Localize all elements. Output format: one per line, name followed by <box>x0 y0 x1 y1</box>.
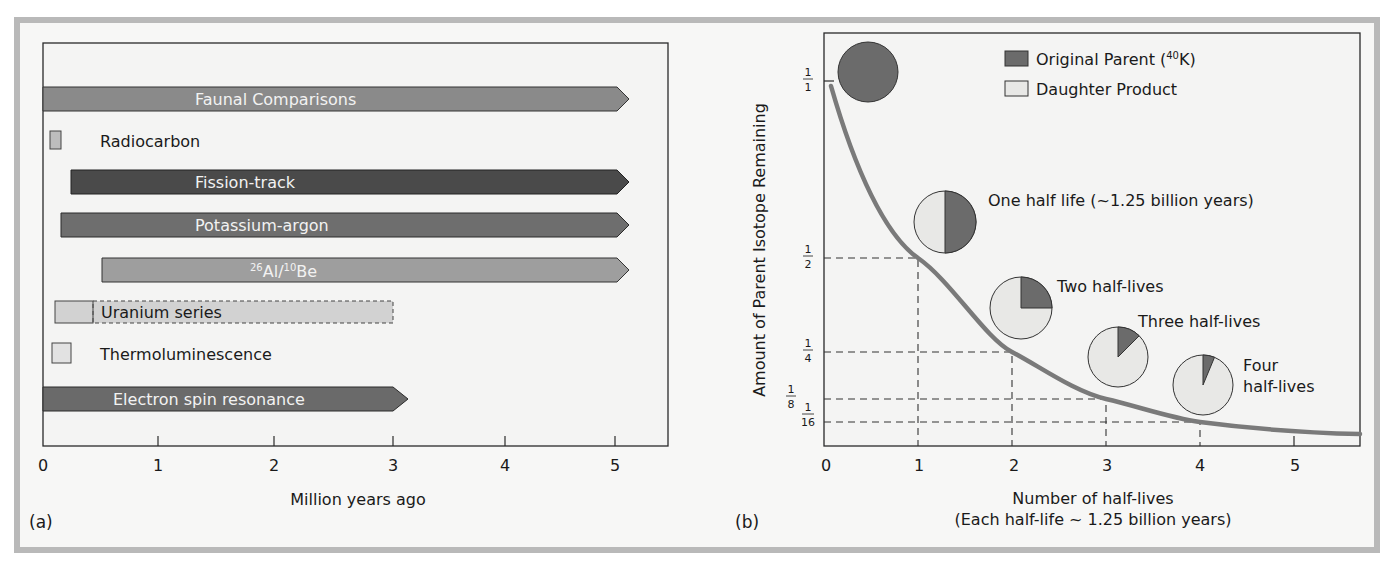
svg-text:4: 4 <box>805 352 812 365</box>
x-tick-label: 2 <box>1009 456 1019 475</box>
x-tick-label: 4 <box>500 456 510 475</box>
panel-label-a: (a) <box>29 512 53 532</box>
x-tick-label: 0 <box>821 456 831 475</box>
panel-a: Faunal Comparisons Radiocarbon Fission-t… <box>29 43 668 532</box>
y-tick-1-1: 1 1 <box>803 66 813 94</box>
x-tick-label: 1 <box>153 456 163 475</box>
bar-label: Electron spin resonance <box>113 390 305 409</box>
legend-swatch-parent <box>1005 51 1028 66</box>
y-axis-title: Amount of Parent Isotope Remaining <box>750 103 769 397</box>
bar-label: Potassium-argon <box>195 216 329 235</box>
y-tick-1-8: 1 8 <box>786 383 796 411</box>
figure-canvas: Faunal Comparisons Radiocarbon Fission-t… <box>0 0 1394 581</box>
svg-text:1: 1 <box>805 243 812 256</box>
svg-text:1: 1 <box>805 81 812 94</box>
y-tick-1-4: 1 4 <box>803 337 813 365</box>
svg-text:16: 16 <box>801 416 815 429</box>
x-tick-label: 2 <box>269 456 279 475</box>
x-tick-label: 5 <box>1290 456 1300 475</box>
x-tick-label: 3 <box>1102 456 1112 475</box>
svg-text:1: 1 <box>805 66 812 79</box>
pie-label: One half life (~1.25 billion years) <box>988 191 1254 210</box>
bar-al-be: 26Al/10Be <box>102 258 629 282</box>
x-tick-label: 1 <box>914 456 924 475</box>
pie-label: Three half-lives <box>1137 312 1260 331</box>
panel-label-b: (b) <box>735 512 759 532</box>
pie-label-line2: half-lives <box>1243 377 1314 396</box>
pie-label-line1: Four <box>1243 356 1279 375</box>
pie-label: Two half-lives <box>1056 277 1164 296</box>
y-tick-1-2: 1 2 <box>803 243 813 271</box>
bar-label: Faunal Comparisons <box>195 90 356 109</box>
svg-text:1: 1 <box>788 383 795 396</box>
bar-potassium-argon: Potassium-argon <box>61 213 629 237</box>
x-tick-label: 4 <box>1195 456 1205 475</box>
svg-text:1: 1 <box>805 401 812 414</box>
x-axis-title-line1: Number of half-lives <box>1012 489 1173 508</box>
svg-text:2: 2 <box>805 258 812 271</box>
x-tick-label: 3 <box>388 456 398 475</box>
legend-label-daughter: Daughter Product <box>1036 80 1177 99</box>
y-tick-labels: 1 1 1 2 1 4 1 8 1 16 <box>786 66 815 429</box>
bar-label: Uranium series <box>101 303 222 322</box>
bar-fission-track: Fission-track <box>71 170 629 194</box>
panel-b: One half life (~1.25 billion years) Two … <box>735 33 1360 532</box>
svg-text:1: 1 <box>805 337 812 350</box>
bar-label: Thermoluminescence <box>99 345 272 364</box>
bar-label: Fission-track <box>195 173 296 192</box>
pie-full-parent <box>838 42 898 102</box>
x-tick-label: 0 <box>38 456 48 475</box>
svg-text:8: 8 <box>788 398 795 411</box>
x-axis-title-line2: (Each half-life ~ 1.25 billion years) <box>955 510 1232 529</box>
bar-uranium-series: Uranium series <box>55 301 393 323</box>
x-axis-title: Million years ago <box>290 490 425 509</box>
x-tick-label: 5 <box>610 456 620 475</box>
legend-swatch-daughter <box>1005 81 1028 96</box>
bar-electron-spin-resonance: Electron spin resonance <box>43 387 408 411</box>
bar-label: Radiocarbon <box>100 132 200 151</box>
y-tick-1-16: 1 16 <box>801 401 815 429</box>
bar-faunal-comparisons: Faunal Comparisons <box>43 87 629 111</box>
